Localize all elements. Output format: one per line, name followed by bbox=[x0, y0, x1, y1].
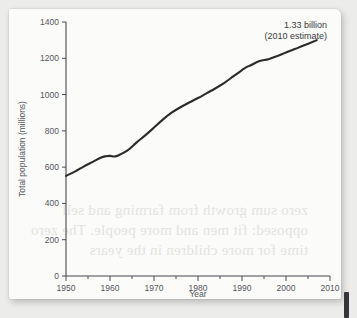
y-tick-label: 800 bbox=[45, 126, 59, 136]
population-line-chart: 0200400600800100012001400 19501960197019… bbox=[9, 9, 341, 299]
y-tick-label: 400 bbox=[45, 198, 59, 208]
chart-svg: 0200400600800100012001400 19501960197019… bbox=[9, 9, 341, 299]
y-tick-label: 1400 bbox=[40, 17, 59, 27]
y-tick-label: 200 bbox=[45, 235, 59, 245]
y-axis-ticks: 0200400600800100012001400 bbox=[40, 17, 66, 281]
x-tick-label: 2000 bbox=[277, 283, 296, 293]
scanned-page: zero sum growth from farming and sell op… bbox=[0, 0, 357, 318]
y-tick-label: 600 bbox=[45, 162, 59, 172]
annotation-value: 1.33 billion bbox=[284, 20, 327, 30]
x-tick-label: 1990 bbox=[233, 283, 252, 293]
annotation-caption: (2010 estimate) bbox=[264, 31, 327, 41]
population-line bbox=[66, 40, 317, 176]
x-tick-label: 2010 bbox=[321, 283, 340, 293]
y-tick-label: 0 bbox=[54, 271, 59, 281]
x-tick-label: 1960 bbox=[101, 283, 120, 293]
page-binding-edge bbox=[344, 292, 349, 318]
x-axis-title: Year bbox=[189, 289, 206, 299]
x-tick-label: 1950 bbox=[57, 283, 76, 293]
y-tick-label: 1000 bbox=[40, 90, 59, 100]
y-tick-label: 1200 bbox=[40, 53, 59, 63]
y-axis-title: Total population (millions) bbox=[17, 101, 27, 197]
x-tick-label: 1970 bbox=[145, 283, 164, 293]
